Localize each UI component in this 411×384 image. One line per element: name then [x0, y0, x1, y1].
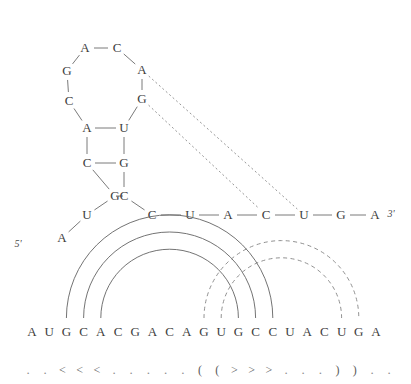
arc-sequence-base-17: A — [302, 324, 311, 340]
arc-sequence-base-21: A — [371, 324, 380, 340]
structure-symbol-13: > — [231, 363, 238, 378]
structure-symbol-7: . — [130, 362, 133, 378]
structure-symbol-15: > — [265, 363, 272, 378]
structure-symbol-19: ) — [336, 363, 340, 378]
structure-symbol-6: . — [112, 362, 115, 378]
arc-sequence-base-10: A — [182, 324, 191, 340]
arc-sequence-base-6: C — [114, 324, 123, 340]
structure-symbol-18: . — [319, 362, 322, 378]
arc-pseudoknot — [204, 241, 359, 318]
structure-symbol-10: . — [181, 362, 184, 378]
structure-symbol-5: < — [93, 363, 100, 378]
structure-symbol-2: . — [44, 362, 47, 378]
arc-basepair — [101, 249, 239, 318]
arc-sequence-base-19: U — [337, 324, 346, 340]
arc-basepair — [66, 215, 272, 318]
structure-symbol-3: < — [59, 363, 66, 378]
structure-symbol-8: . — [147, 362, 150, 378]
rna-figure: AUGCACGACAGUGCCUACUGA5'3' AUGCACGACAGUGC… — [0, 0, 411, 384]
structure-symbol-17: . — [302, 362, 305, 378]
arc-sequence-base-9: C — [165, 324, 174, 340]
arc-sequence-base-4: C — [79, 324, 88, 340]
structure-symbol-21: . — [370, 362, 373, 378]
structure-symbol-20: ) — [353, 363, 357, 378]
arc-sequence-base-18: C — [320, 324, 329, 340]
arc-sequence-base-15: C — [268, 324, 277, 340]
arc-sequence-base-12: U — [216, 324, 225, 340]
structure-symbol-11: ( — [198, 363, 202, 378]
structure-symbol-1: . — [26, 362, 29, 378]
arc-sequence-base-8: A — [148, 324, 157, 340]
arc-sequence-base-1: A — [27, 324, 36, 340]
structure-symbol-4: < — [76, 363, 83, 378]
arc-sequence-base-16: U — [285, 324, 294, 340]
arc-sequence-base-3: G — [62, 324, 71, 340]
arc-sequence-base-11: G — [199, 324, 208, 340]
arc-sequence-base-7: G — [130, 324, 139, 340]
arc-sequence-base-14: C — [251, 324, 260, 340]
arc-basepair — [84, 232, 256, 318]
structure-symbol-16: . — [284, 362, 287, 378]
arc-sequence-base-13: G — [234, 324, 243, 340]
arc-sequence-base-2: U — [44, 324, 53, 340]
structure-symbol-9: . — [164, 362, 167, 378]
arc-sequence-base-20: G — [354, 324, 363, 340]
structure-symbol-22: . — [388, 362, 391, 378]
structure-symbol-12: ( — [215, 363, 219, 378]
structure-symbol-14: > — [248, 363, 255, 378]
arc-sequence-base-5: A — [96, 324, 105, 340]
